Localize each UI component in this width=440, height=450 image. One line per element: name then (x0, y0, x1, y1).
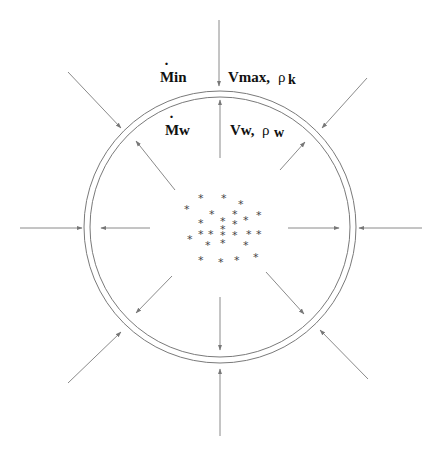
outflow-arrow-ne (280, 142, 305, 170)
cluster-star: * (256, 228, 262, 241)
cluster-star: * (243, 214, 249, 227)
cluster-star: * (209, 208, 215, 221)
cluster-star: * (205, 239, 211, 252)
label-mdot-w: M · w (165, 109, 190, 138)
label-rho-w-symbol: ρ (262, 122, 270, 138)
label-vmax-rho-k: Vmax, ρ k (228, 69, 296, 87)
diagram-canvas: M · in Vmax, ρ k M · w Vw, ρ w *********… (0, 0, 440, 450)
label-mdot-w-suffix: w (179, 122, 190, 138)
label-rho-k-sub: k (288, 72, 296, 87)
label-mdot-w-dot: · (169, 109, 174, 125)
inflow-arrow-ne (322, 78, 367, 128)
cluster-star: * (253, 251, 259, 264)
cluster-star: * (198, 228, 204, 241)
outflow-arrow-se (266, 272, 304, 314)
cluster-star: * (232, 229, 238, 242)
label-rho-k-symbol: ρ (278, 69, 286, 85)
label-vw-rho-w: Vw, ρ w (230, 122, 285, 140)
cluster-star: * (256, 209, 262, 222)
cluster-star: * (243, 239, 249, 252)
label-mdot-in-dot: · (164, 56, 169, 72)
cluster-star: * (221, 192, 227, 205)
label-mdot-in-suffix: in (174, 69, 187, 85)
label-vw: Vw, (230, 122, 255, 138)
cluster-star: * (238, 198, 244, 211)
inflow-arrow-nw (68, 72, 121, 128)
star-cluster: ************************** (184, 192, 262, 269)
cluster-star: * (234, 254, 240, 267)
label-rho-w-sub: w (274, 125, 285, 140)
cluster-star: * (184, 203, 190, 216)
outflow-arrow-nw (136, 141, 175, 190)
shell-diagram: M · in Vmax, ρ k M · w Vw, ρ w *********… (0, 0, 440, 450)
inflow-arrow-se (320, 330, 368, 379)
cluster-star: * (218, 256, 224, 269)
cluster-star: * (198, 192, 204, 205)
cluster-star: * (220, 237, 226, 250)
cluster-star: * (187, 233, 193, 246)
label-mdot-in: M · in (160, 56, 187, 85)
inflow-arrow-sw (68, 332, 121, 383)
cluster-star: * (198, 254, 204, 267)
outflow-arrow-sw (136, 276, 172, 313)
label-vmax: Vmax, (228, 69, 270, 85)
